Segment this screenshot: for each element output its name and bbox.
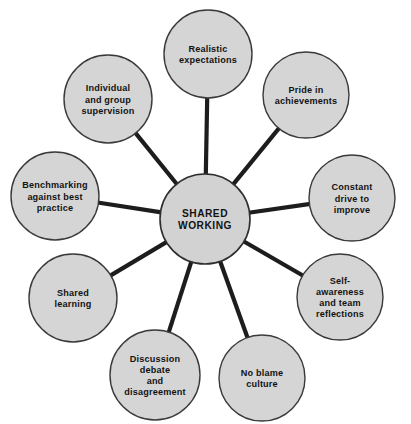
- spoke-to-shared-learning: [110, 242, 167, 276]
- node-realistic-expectations[interactable]: Realisticexpectations: [164, 10, 252, 98]
- node-individual-and-group-supervision[interactable]: Individualand groupsupervision: [64, 55, 152, 143]
- node-label-individual-and-group-supervision: Individualand groupsupervision: [81, 83, 134, 115]
- node-no-blame-culture[interactable]: No blameculture: [219, 335, 305, 421]
- spoke-to-self-awareness-and-team-reflections: [243, 241, 304, 276]
- hub-circle: [160, 174, 250, 264]
- spoke-to-no-blame-culture: [220, 260, 248, 338]
- spoke-to-individual-and-group-supervision: [135, 132, 177, 184]
- figure-caption-strip: [0, 413, 411, 424]
- spoke-to-pride-in-achievements: [233, 128, 280, 185]
- hub-node-shared-working[interactable]: SHAREDWORKING: [160, 174, 250, 264]
- spoke-to-constant-drive-to-improve: [249, 204, 311, 213]
- shared-working-wheel-diagram: RealisticexpectationsPride inachievement…: [0, 0, 411, 424]
- diagram-canvas: RealisticexpectationsPride inachievement…: [0, 0, 411, 424]
- node-constant-drive-to-improve[interactable]: Constantdrive toimprove: [309, 155, 395, 241]
- node-pride-in-achievements[interactable]: Pride inachievements: [263, 52, 349, 138]
- node-label-constant-drive-to-improve: Constantdrive toimprove: [332, 182, 373, 214]
- node-shared-learning[interactable]: Sharedlearning: [29, 254, 117, 342]
- node-label-shared-learning: Sharedlearning: [55, 288, 92, 309]
- node-discussion-debate-and-disagreement[interactable]: Discussiondebateanddisagreement: [110, 330, 200, 420]
- node-label-no-blame-culture: No blameculture: [241, 368, 283, 389]
- spoke-to-benchmarking-against-best-practice: [98, 203, 162, 213]
- hub-label: SHAREDWORKING: [178, 208, 232, 231]
- node-self-awareness-and-team-reflections[interactable]: Self-awarenessand teamreflections: [297, 254, 383, 340]
- spoke-to-realistic-expectations: [206, 97, 207, 175]
- node-benchmarking-against-best-practice[interactable]: Benchmarkingagainst bestpractice: [11, 152, 99, 240]
- hub-group: SHAREDWORKING: [160, 174, 250, 264]
- spoke-to-discussion-debate-and-disagreement: [168, 261, 191, 333]
